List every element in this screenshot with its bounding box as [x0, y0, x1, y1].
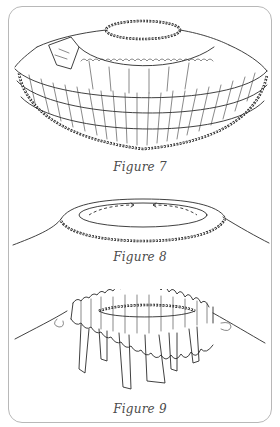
illustration-page: Figure 7 Figure 8 — [8, 6, 272, 423]
figure-8-drawing — [9, 193, 273, 255]
figure-8-caption: Figure 8 — [9, 250, 271, 264]
figure-9-caption: Figure 9 — [9, 402, 271, 416]
gathered-band-illustration — [9, 289, 273, 399]
figure-7-caption: Figure 7 — [9, 160, 271, 174]
ruffle-skirt-illustration — [9, 9, 273, 159]
figure-7-drawing — [9, 9, 273, 159]
collar-hem-illustration — [9, 193, 273, 255]
figure-9-drawing — [9, 289, 273, 399]
